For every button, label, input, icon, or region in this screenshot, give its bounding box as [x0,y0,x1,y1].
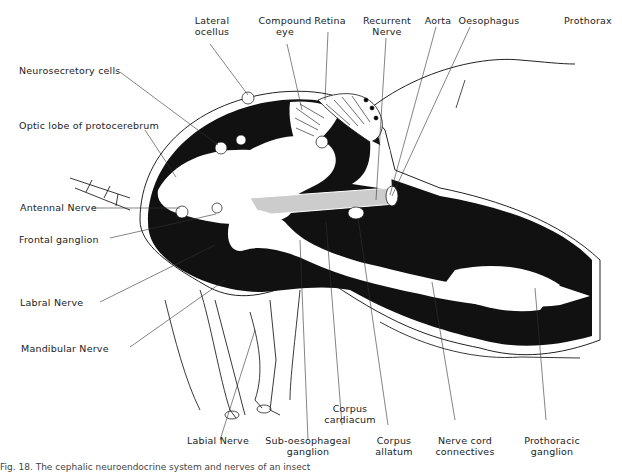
label-line: ocellus [195,26,230,37]
label-line: Nerve cord [435,435,494,446]
label-lateral-ocellus: Lateral ocellus [195,15,230,37]
figure-caption: Fig. 18. The cephalic neuroendocrine sys… [0,462,310,472]
label-line: connectives [435,446,494,457]
label-line: eye [258,26,311,37]
label-recurrent-nerve: Recurrent Nerve [363,15,411,37]
label-sub-oesophageal-ganglion: Sub-oesophageal ganglion [265,435,350,457]
label-optic-lobe: Optic lobe of protocerebrum [19,120,159,131]
label-labral-nerve: Labral Nerve [20,297,83,308]
label-prothoracic-ganglion: Prothoracic ganglion [524,435,580,457]
label-mandibular-nerve: Mandibular Nerve [21,343,109,354]
label-frontal-ganglion: Frontal ganglion [19,234,99,245]
label-line: allatum [375,446,412,457]
label-line: Prothoracic [524,435,580,446]
label-oesophagus: Oesophagus [459,15,520,26]
label-nerve-cord-connectives: Nerve cord connectives [435,435,494,457]
label-line: Sub-oesophageal [265,435,350,446]
label-line: Lateral [195,15,230,26]
label-line: ganglion [524,446,580,457]
label-retina: Retina [314,15,345,26]
label-prothorax: Prothorax [564,15,612,26]
label-corpus-allatum: Corpus allatum [375,435,412,457]
label-line: ganglion [265,446,350,457]
label-line: Corpus [324,403,376,414]
label-compound-eye: Compound eye [258,15,311,37]
label-antennal-nerve: Antennal Nerve [20,202,97,213]
label-line: cardiacum [324,414,376,425]
label-aorta: Aorta [425,15,452,26]
label-labial-nerve: Labial Nerve [187,435,249,446]
label-corpus-cardiacum: Corpus cardiacum [324,403,376,425]
label-line: Corpus [375,435,412,446]
label-line: Compound [258,15,311,26]
label-line: Nerve [363,26,411,37]
label-line: Recurrent [363,15,411,26]
label-neurosecretory-cells: Neurosecretory cells [19,65,120,76]
